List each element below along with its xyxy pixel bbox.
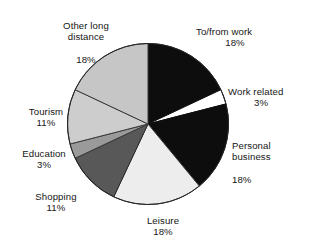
slice-label-percent: 18% [38, 54, 134, 66]
slice-label-line1: Personal [232, 140, 271, 151]
slice-label-work-related: Work related 3% [228, 74, 308, 120]
slice-label-line1: Leisure [147, 215, 179, 226]
slice-label-percent: 18% [232, 174, 306, 186]
slice-label-line1: Other long [63, 20, 109, 31]
slice-label-leisure: Leisure 18% [128, 203, 198, 245]
slice-label-line2: business [232, 151, 306, 163]
slice-label-line1: Work related [228, 86, 283, 97]
slice-label-percent: 3% [4, 159, 84, 171]
slice-label-personal-business: Personal business 18% [232, 128, 306, 198]
slice-label-percent: 18% [128, 226, 198, 238]
slice-label-tourism: Tourism 11% [10, 94, 82, 140]
slice-label-tofrom-work: To/from work 18% [196, 14, 296, 60]
pie-chart-figure: Other long distance 18% To/from work 18%… [0, 0, 310, 245]
slice-label-line1: Education [22, 148, 66, 159]
slice-label-percent: 11% [18, 202, 94, 214]
slice-label-percent: 18% [196, 37, 274, 49]
slice-label-shopping: Shopping 11% [18, 179, 94, 225]
slice-label-line2: distance [38, 31, 134, 43]
slice-label-other-long-distance: Other long distance 18% [38, 8, 134, 78]
slice-label-line1: Shopping [35, 191, 76, 202]
slice-label-line1: Tourism [29, 106, 63, 117]
slice-label-line1: To/from work [196, 26, 252, 37]
slice-label-percent: 11% [10, 117, 82, 129]
slice-label-percent: 3% [228, 97, 294, 109]
slice-label-education: Education 3% [4, 136, 84, 182]
